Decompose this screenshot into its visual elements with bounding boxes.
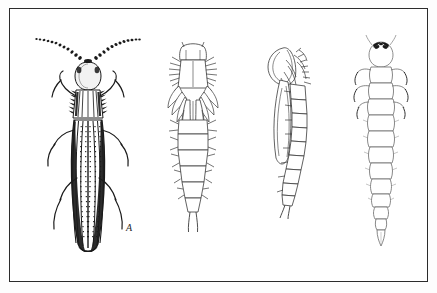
figure-pupa-dorsal (168, 42, 218, 232)
larva-abdomen (368, 115, 395, 230)
pupa-lateral-wingpad (274, 80, 291, 164)
antenna-right (93, 38, 140, 60)
figure-adult-beetle: A (35, 38, 141, 252)
figure-group: A (0, 0, 437, 293)
larva-thorax (368, 67, 395, 115)
pupa-urogomphi (188, 212, 197, 232)
figure-pupa-lateral (268, 48, 311, 219)
illustration-plate: A (0, 0, 437, 293)
figure-larva (354, 35, 408, 246)
larva-head (369, 42, 393, 67)
antenna-left (35, 38, 82, 61)
pupa-dorsal-abdomen (178, 120, 208, 212)
artist-signature: A (125, 222, 133, 233)
pupa-lateral-urogomphi (280, 205, 290, 219)
